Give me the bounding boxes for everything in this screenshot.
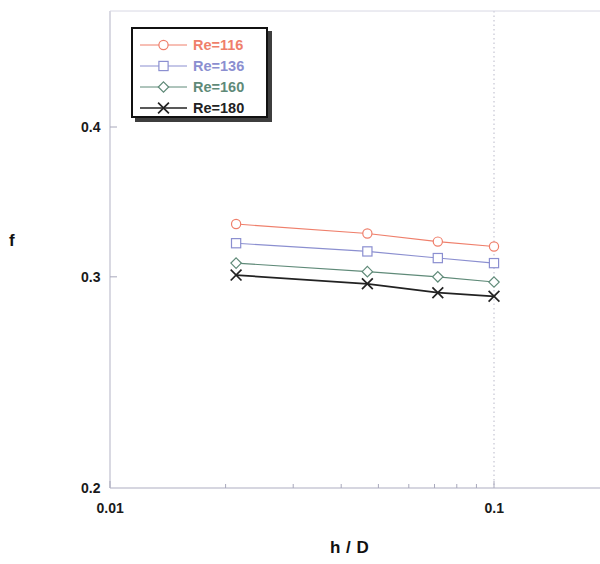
y-tick-label: 0.3	[81, 269, 100, 285]
data-point-marker-circle	[489, 242, 498, 251]
chart-container: 0.20.30.40.010.1 f h / D Re=116Re=136Re=…	[0, 0, 600, 564]
legend-box: Re=116Re=136Re=160Re=180	[131, 27, 268, 118]
x-tick-label: 0.01	[97, 500, 124, 516]
data-point-marker-square	[433, 253, 442, 262]
legend-item-2[interactable]: Re=160	[133, 76, 266, 97]
legend-item-0[interactable]: Re=116	[133, 34, 266, 55]
data-point-marker-diamond	[362, 266, 372, 276]
legend-marker-diamond-icon	[139, 80, 188, 94]
legend-label: Re=136	[193, 59, 244, 73]
data-point-marker-diamond	[158, 81, 168, 91]
x-axis-title: h / D	[330, 538, 369, 558]
data-point-marker-diamond	[433, 272, 443, 282]
series-layer	[231, 219, 500, 301]
y-tick-label: 0.4	[81, 119, 100, 135]
y-tick-label: 0.2	[81, 480, 100, 496]
legend-item-1[interactable]: Re=136	[133, 55, 266, 76]
data-point-marker-square	[159, 61, 168, 70]
data-point-marker-square	[231, 239, 240, 248]
data-point-marker-square	[363, 247, 372, 256]
y-axis-title: f	[9, 231, 15, 251]
data-point-marker-diamond	[231, 258, 241, 268]
legend-marker-cross-icon	[139, 101, 188, 115]
legend-label: Re=160	[193, 80, 244, 94]
legend-marker-square-icon	[139, 59, 188, 73]
data-point-marker-circle	[433, 237, 442, 246]
x-tick-label: 0.1	[485, 500, 504, 516]
legend-item-3[interactable]: Re=180	[133, 97, 266, 118]
ticks-layer	[110, 127, 494, 488]
legend-marker-circle-icon	[139, 38, 188, 52]
data-point-marker-circle	[363, 229, 372, 238]
data-point-marker-circle	[159, 40, 168, 49]
data-point-marker-diamond	[489, 277, 499, 287]
data-point-marker-circle	[231, 219, 240, 228]
legend-label: Re=116	[193, 38, 243, 52]
data-point-marker-square	[489, 259, 498, 268]
legend-label: Re=180	[193, 101, 244, 115]
